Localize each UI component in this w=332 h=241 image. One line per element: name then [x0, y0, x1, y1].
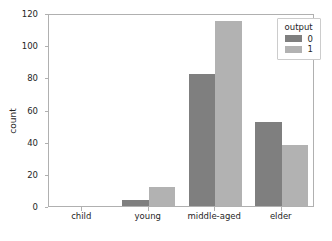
x-axis-tick-label: young [135, 212, 161, 221]
legend-entries: 01 [285, 35, 313, 54]
y-axis-tick-label: 40 [27, 138, 38, 147]
bar [122, 200, 149, 206]
bar [255, 122, 282, 206]
legend-label: 0 [308, 35, 313, 44]
legend-swatch [285, 46, 302, 53]
y-axis-tick-label: 20 [27, 171, 38, 180]
legend-entry: 1 [285, 45, 313, 54]
y-axis-tick-label: 100 [22, 42, 38, 51]
plot-area [48, 14, 314, 207]
y-axis-tick-label: 120 [22, 10, 38, 19]
x-axis-tick-labels: childyoungmiddle-agedelder [48, 209, 314, 229]
legend-title: output [285, 23, 313, 32]
bar-group [49, 15, 116, 206]
y-axis-tick-label: 60 [27, 106, 38, 115]
legend: output 01 [277, 18, 321, 60]
bar [282, 145, 309, 206]
bar [215, 21, 242, 206]
y-axis-tick-labels: 020406080100120 [0, 0, 44, 241]
bar-chart-figure: count 020406080100120 childyoungmiddle-a… [0, 0, 332, 241]
bar-groups [49, 15, 313, 206]
bar-group [182, 15, 249, 206]
legend-swatch [285, 35, 302, 42]
legend-label: 1 [308, 45, 313, 54]
bar-group [116, 15, 183, 206]
legend-entry: 0 [285, 35, 313, 44]
x-axis-tick-label: elder [270, 212, 292, 221]
x-axis-tick-label: middle-aged [188, 212, 241, 221]
x-axis-tick-label: child [71, 212, 91, 221]
y-axis-tick-label: 80 [27, 74, 38, 83]
y-axis-tick-label: 0 [33, 203, 38, 212]
bar [189, 74, 216, 206]
bar [149, 187, 176, 206]
